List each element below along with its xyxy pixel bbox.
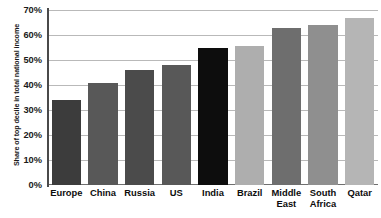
y-axis-tick-label: 30% (8, 105, 42, 115)
bars-layer (48, 10, 378, 185)
bar (162, 65, 191, 185)
bar (272, 28, 301, 186)
bar (88, 83, 117, 186)
bar-chart: Share of top decile in total national in… (0, 0, 381, 218)
x-axis-category-labels: EuropeChinaRussiaUSIndiaBrazilMiddle Eas… (48, 188, 378, 218)
y-axis-tick-label: 40% (8, 80, 42, 90)
bar (198, 48, 227, 186)
y-axis-tick-label: 20% (8, 130, 42, 140)
y-axis-tick-label: 50% (8, 55, 42, 65)
x-axis-category-label: US (158, 188, 195, 199)
x-axis-category-label: China (85, 188, 122, 199)
x-axis-category-label: Europe (48, 188, 85, 199)
y-axis-tick-label: 60% (8, 30, 42, 40)
x-axis-category-label: Qatar (341, 188, 378, 199)
x-axis-category-label: Russia (121, 188, 158, 199)
bar (125, 70, 154, 185)
bar (52, 100, 81, 185)
x-axis-category-label: Middle East (268, 188, 305, 209)
x-axis-category-label: India (195, 188, 232, 199)
y-axis-tick-label: 10% (8, 155, 42, 165)
bar (235, 46, 264, 185)
y-axis-tick-label: 70% (8, 5, 42, 15)
y-axis-tick-label: 0% (8, 180, 42, 190)
x-axis-category-label: Brazil (231, 188, 268, 199)
bar (345, 18, 374, 186)
bar (308, 25, 337, 185)
x-axis-category-label: South Africa (305, 188, 342, 209)
y-axis-tick-labels: 0%10%20%30%40%50%60%70% (4, 10, 42, 185)
